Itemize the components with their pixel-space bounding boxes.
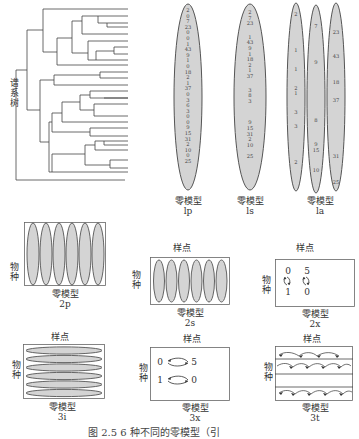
2p-code: 2p [40, 299, 90, 309]
2s-title: 零模型 [165, 308, 215, 318]
3t-top-label: 样点 [287, 334, 337, 344]
panel-3x [150, 347, 230, 401]
2s-top-label: 样点 [157, 243, 207, 253]
ls-code: ls [228, 206, 272, 216]
panel-2p [24, 222, 106, 286]
panel-3t [275, 346, 353, 401]
dendrogram-label: 谱系树 [8, 78, 21, 108]
3i-code: 3i [37, 412, 87, 422]
2s-side-label: 物种 [130, 270, 143, 290]
2x-title: 零模型 [290, 309, 340, 319]
2x-val-tr: 5 [302, 266, 312, 276]
la-title: 零模型 [290, 196, 350, 206]
lp-code: lp [166, 206, 210, 216]
3i-side-label: 物种 [10, 360, 23, 380]
3t-title: 零模型 [290, 403, 340, 413]
3i-title: 零模型 [37, 402, 87, 412]
3x-side-label: 物种 [137, 363, 150, 383]
3x-val-r1a: 0 [155, 357, 165, 367]
2x-val-tl: 0 [283, 266, 293, 276]
lp-title: 零模型 [166, 196, 210, 206]
3x-val-r2a: 1 [155, 375, 165, 385]
2p-title: 零模型 [40, 289, 90, 299]
2p-side-label: 物种 [8, 262, 21, 282]
figure-caption: 图 2.5 6 种不同的零模型（引 [88, 424, 220, 439]
ls-numbers: 2723143911821373839153121025 [240, 10, 260, 160]
3x-top-label: 样点 [167, 334, 217, 344]
2x-top-label: 样点 [280, 243, 330, 253]
3x-val-r1b: 5 [189, 357, 199, 367]
ellipses-la [286, 0, 358, 196]
panel-3i [23, 344, 105, 399]
la-code: la [290, 206, 350, 216]
3t-code: 3t [290, 413, 340, 423]
3t-side-label: 物种 [262, 362, 275, 382]
2s-code: 2s [165, 318, 215, 328]
2x-val-bl: 1 [283, 287, 293, 297]
3x-val-r2b: 0 [189, 375, 199, 385]
panel-2s [150, 257, 230, 305]
3x-title: 零模型 [170, 403, 220, 413]
3x-code: 3x [170, 413, 220, 423]
lp-numbers: 207230014391018213703630091531210025 [178, 8, 198, 165]
2x-code: 2x [290, 319, 340, 329]
3i-top-label: 样点 [35, 332, 85, 342]
2x-side-label: 物种 [260, 275, 273, 295]
2x-val-br: 0 [302, 287, 312, 297]
ls-title: 零模型 [228, 196, 272, 206]
